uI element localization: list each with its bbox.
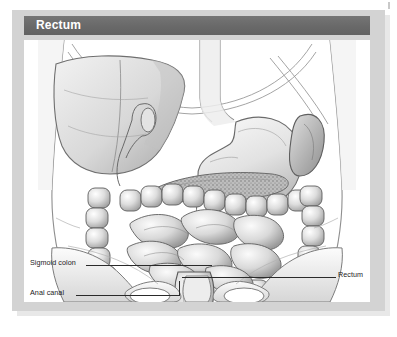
leader-line-anal-canal-vertical [179,281,180,296]
label-rectum: Rectum [338,270,363,279]
leader-line-anal-canal [76,295,179,296]
scan-artifact [388,2,390,9]
label-sigmoid-colon: Sigmoid colon [30,258,76,267]
illustration-panel [24,40,370,302]
label-anal-canal: Anal canal [30,288,64,297]
anatomy-illustration [24,40,370,302]
leader-line-sigmoid-colon [86,265,212,266]
figure-title: Rectum [36,19,81,32]
leader-line-rectum [182,277,336,278]
figure-title-bar: Rectum [24,16,370,35]
figure-root: Rectum [0,0,397,337]
